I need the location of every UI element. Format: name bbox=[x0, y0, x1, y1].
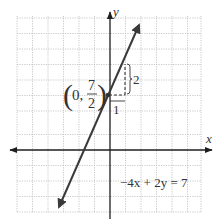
coordinate-plane: x y ( 0, 7 2 ) 1 2 −4x + 2y = 7 bbox=[0, 0, 221, 219]
intercept-label: ( 0, 7 2 ) bbox=[63, 78, 107, 112]
rise-label: 2 bbox=[133, 72, 140, 87]
point-numerator: 7 bbox=[88, 78, 95, 93]
paren-close: ) bbox=[97, 78, 107, 112]
equation-label: −4x + 2y = 7 bbox=[120, 175, 188, 190]
rise-brace bbox=[127, 64, 132, 94]
slope-triangle bbox=[109, 64, 125, 95]
x-axis-label: x bbox=[205, 131, 212, 146]
run-label: 1 bbox=[113, 102, 120, 117]
y-axis-label: y bbox=[111, 4, 119, 19]
point-x: 0, bbox=[72, 87, 83, 103]
point-denominator: 2 bbox=[88, 96, 95, 111]
